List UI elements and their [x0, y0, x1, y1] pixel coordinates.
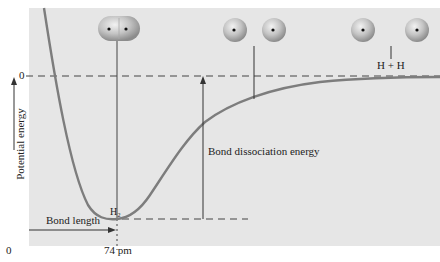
y-axis-label: Potential energy — [14, 94, 26, 194]
molecule-label: H₂ — [110, 206, 121, 217]
h2-molecule-icon — [98, 16, 140, 41]
y-zero-label: 0 — [19, 69, 25, 81]
bond-dissociation-label: Bond dissociation energy — [208, 145, 320, 157]
bond-length-label: Bond length — [46, 214, 100, 226]
potential-energy-diagram: 0 Potential energy 0 74 pm H₂ Bond lengt… — [0, 0, 440, 262]
separated-atoms-label: H + H — [377, 59, 405, 71]
y-axis-arrowhead-icon — [11, 77, 17, 85]
x-tick-label: 74 pm — [104, 244, 132, 256]
x-origin-label: 0 — [6, 244, 12, 256]
